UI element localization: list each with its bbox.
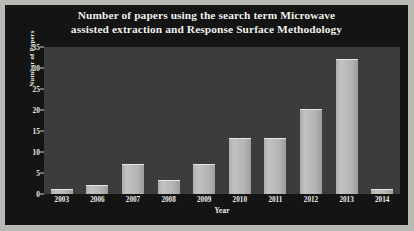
chart-title-line-1: Number of papers using the search term M…	[11, 9, 402, 23]
x-axis-label: Year	[44, 207, 400, 215]
chart-figure: Number of papers using the search term M…	[5, 5, 408, 225]
y-axis-tick-label: 15	[33, 127, 40, 136]
plot-area	[44, 47, 400, 194]
chart-title-line-2: assisted extraction and Response Surface…	[11, 23, 402, 37]
bar-2009	[193, 164, 215, 194]
x-axis-tick-label: 2003	[55, 196, 69, 204]
y-axis-tick-label: 30	[33, 64, 40, 73]
bar-2014	[371, 189, 393, 194]
y-axis-tick-label: 35	[33, 43, 40, 52]
x-axis-tick-label: 2006	[90, 196, 104, 204]
y-axis-tick-label: 20	[33, 106, 40, 115]
bar-2007	[122, 164, 144, 194]
x-axis-tick-label: 2013	[339, 196, 353, 204]
x-axis-tick-label: 2012	[304, 196, 318, 204]
bar-2010	[229, 138, 251, 194]
y-axis-ticks: 05101520253035	[5, 47, 44, 194]
figure-frame: Number of papers using the search term M…	[0, 0, 414, 231]
chart-title: Number of papers using the search term M…	[5, 9, 408, 36]
bar-2013	[336, 59, 358, 194]
x-axis-tick-label: 2007	[126, 196, 140, 204]
x-axis-tick-label: 2011	[268, 196, 282, 204]
bar-2011	[264, 138, 286, 194]
x-axis-tick-label: 2014	[375, 196, 389, 204]
y-axis-tick-label: 10	[33, 148, 40, 157]
x-axis-tick-label: 2008	[161, 196, 175, 204]
bar-2008	[158, 180, 180, 194]
x-axis-tick-label: 2010	[233, 196, 247, 204]
y-axis-tick-label: 25	[33, 85, 40, 94]
bar-2006	[86, 185, 108, 194]
x-axis-tick-label: 2009	[197, 196, 211, 204]
bar-2003	[51, 189, 73, 194]
bar-2012	[300, 109, 322, 194]
